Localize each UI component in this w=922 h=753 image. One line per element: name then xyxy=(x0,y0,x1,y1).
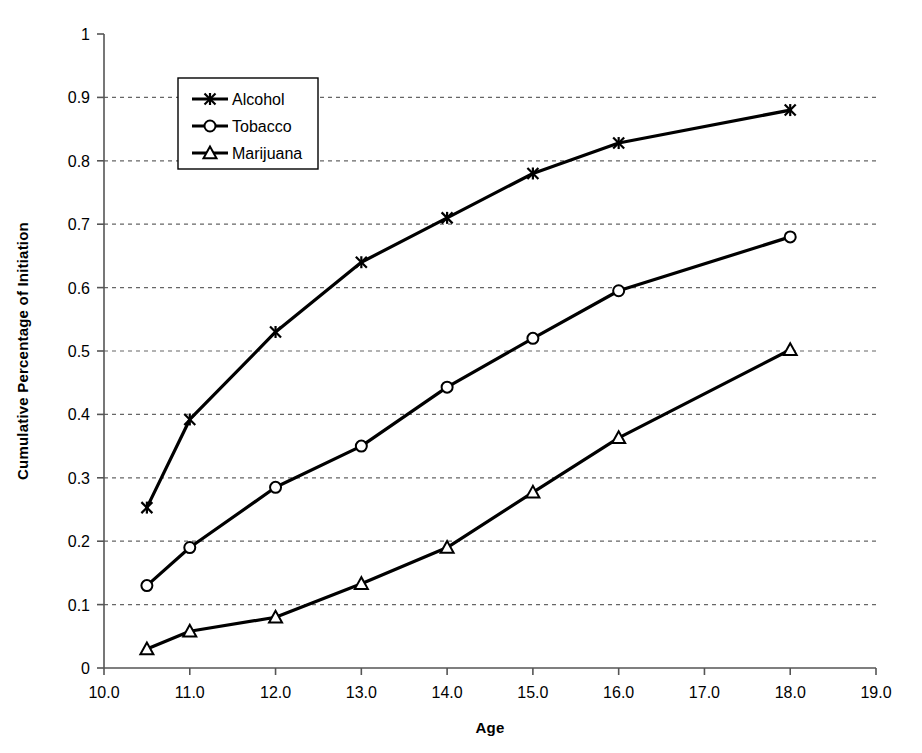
data-point-marijuana xyxy=(784,343,797,355)
x-axis-tick-label: 12.0 xyxy=(260,684,291,701)
data-point-tobacco xyxy=(527,333,538,344)
chart-figure: 00.10.20.30.40.50.60.70.80.9110.011.012.… xyxy=(0,0,922,753)
y-axis-tick-label: 1 xyxy=(81,26,90,43)
y-axis-tick-label: 0.3 xyxy=(68,470,90,487)
x-axis-tick-label: 17.0 xyxy=(689,684,720,701)
y-axis-tick-label: 0.1 xyxy=(68,597,90,614)
data-point-tobacco xyxy=(270,482,281,493)
data-point-tobacco xyxy=(356,441,367,452)
y-axis-title: Cumulative Percentage of Initiation xyxy=(14,222,31,480)
legend-label-marijuana: Marijuana xyxy=(232,145,302,162)
x-axis-tick-label: 15.0 xyxy=(517,684,548,701)
x-axis-tick-label: 18.0 xyxy=(775,684,806,701)
x-axis-tick-label: 14.0 xyxy=(432,684,463,701)
x-axis-tick-label: 16.0 xyxy=(603,684,634,701)
y-axis-tick-label: 0.4 xyxy=(68,406,90,423)
data-point-alcohol xyxy=(141,502,152,514)
y-axis-tick-label: 0.2 xyxy=(68,533,90,550)
legend-label-alcohol: Alcohol xyxy=(232,91,284,108)
data-point-alcohol xyxy=(184,413,195,425)
data-point-tobacco xyxy=(141,580,152,591)
x-axis-tick-label: 13.0 xyxy=(346,684,377,701)
data-point-tobacco xyxy=(785,231,796,242)
y-axis-tick-label: 0.8 xyxy=(68,153,90,170)
data-point-tobacco xyxy=(613,285,624,296)
y-axis-tick-label: 0.7 xyxy=(68,216,90,233)
data-point-tobacco xyxy=(442,382,453,393)
data-point-alcohol xyxy=(356,256,367,268)
legend-label-tobacco: Tobacco xyxy=(232,118,292,135)
line-chart-canvas: 00.10.20.30.40.50.60.70.80.9110.011.012.… xyxy=(0,0,922,753)
x-axis-tick-label: 11.0 xyxy=(175,684,205,701)
x-axis-title: Age xyxy=(476,719,505,736)
y-axis-tick-label: 0.5 xyxy=(68,343,90,360)
series-line-alcohol xyxy=(147,110,790,508)
x-axis-tick-label: 10.0 xyxy=(88,684,119,701)
y-axis-tick-label: 0.6 xyxy=(68,280,90,297)
x-axis-tick-label: 19.0 xyxy=(860,684,891,701)
y-axis-tick-label: 0 xyxy=(81,660,90,677)
data-point-tobacco xyxy=(184,542,195,553)
data-point-alcohol xyxy=(442,212,453,224)
y-axis-tick-label: 0.9 xyxy=(68,89,90,106)
data-point-alcohol xyxy=(270,326,281,338)
legend-marker-tobacco xyxy=(205,121,216,132)
